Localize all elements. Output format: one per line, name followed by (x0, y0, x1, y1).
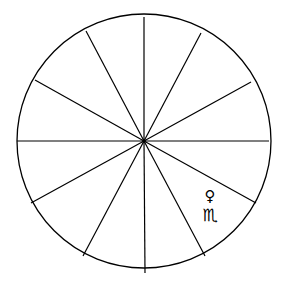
astrology-wheel (0, 0, 283, 281)
wheel-center (142, 139, 146, 143)
cusp-line-7 (144, 141, 145, 273)
venus-icon: ♀ (198, 189, 222, 204)
house-cusp-lines (17, 17, 269, 273)
scorpio-icon: ♏ (198, 207, 222, 224)
